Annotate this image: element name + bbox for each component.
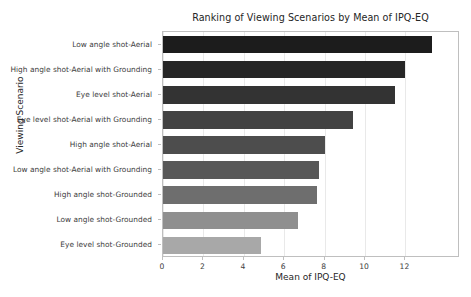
bar-chart-figure: Ranking of Viewing Scenarios by Mean of … — [0, 0, 471, 297]
x-axis-tick-label: 2 — [200, 262, 205, 271]
bar[interactable] — [163, 36, 432, 54]
x-axis-tickmark — [162, 257, 163, 260]
plot-area — [162, 31, 459, 257]
bar[interactable] — [163, 111, 353, 129]
bar[interactable] — [163, 237, 261, 255]
x-axis-tick-label: 6 — [281, 262, 286, 271]
bar[interactable] — [163, 61, 405, 79]
chart-title: Ranking of Viewing Scenarios by Mean of … — [162, 12, 459, 23]
y-axis-tickmark — [158, 119, 161, 120]
y-axis-tickmark — [158, 169, 161, 170]
y-axis-tick-label: Low angle shot-Aerial — [72, 39, 152, 48]
y-axis-tick-label: Eye level shot-Aerial with Grounding — [17, 114, 152, 123]
bar-slot — [163, 161, 460, 179]
bar-series — [163, 32, 458, 256]
bar-slot — [163, 36, 460, 54]
x-axis-tick-label: 8 — [321, 262, 326, 271]
x-axis-tickmark — [404, 257, 405, 260]
y-axis-tick-labels: Low angle shot-AerialHigh angle shot-Aer… — [0, 31, 158, 257]
bar[interactable] — [163, 136, 325, 154]
bar-slot — [163, 61, 460, 79]
y-axis-tick-label: Eye level shot-Aerial — [76, 89, 152, 98]
bar[interactable] — [163, 161, 319, 179]
x-axis-tick-label: 4 — [240, 262, 245, 271]
x-axis-tickmark — [202, 257, 203, 260]
y-axis-tickmark — [158, 244, 161, 245]
y-axis-tick-label: High angle shot-Aerial with Grounding — [10, 64, 152, 73]
x-axis-tick-label: 10 — [359, 262, 369, 271]
bar-slot — [163, 186, 460, 204]
x-axis-tickmark — [243, 257, 244, 260]
y-axis-tick-label: High angle shot-Grounded — [54, 190, 152, 199]
y-axis-tickmark — [158, 69, 161, 70]
y-axis-tick-label: Low angle shot-Aerial with Grounding — [13, 165, 152, 174]
bar-slot — [163, 237, 460, 255]
bar[interactable] — [163, 186, 317, 204]
y-axis-tickmark — [158, 44, 161, 45]
y-axis-tickmark — [158, 194, 161, 195]
bar[interactable] — [163, 86, 395, 104]
x-axis-title: Mean of IPQ-EQ — [162, 272, 459, 282]
bar-slot — [163, 111, 460, 129]
x-axis-tickmark — [324, 257, 325, 260]
bar-slot — [163, 212, 460, 230]
y-axis-tick-label: High angle shot-Aerial — [70, 140, 152, 149]
x-axis-tickmark — [283, 257, 284, 260]
y-axis-tickmark — [158, 219, 161, 220]
y-axis-tick-label: Eye level shot-Grounded — [60, 240, 152, 249]
bar[interactable] — [163, 212, 298, 230]
y-axis-tickmark — [158, 144, 161, 145]
x-axis-tick-label: 0 — [160, 262, 165, 271]
x-axis-tickmark — [364, 257, 365, 260]
y-axis-tickmark — [158, 94, 161, 95]
bar-slot — [163, 136, 460, 154]
bar-slot — [163, 86, 460, 104]
y-axis-tick-label: Low angle shot-Grounded — [56, 215, 152, 224]
x-axis-tick-label: 12 — [400, 262, 410, 271]
